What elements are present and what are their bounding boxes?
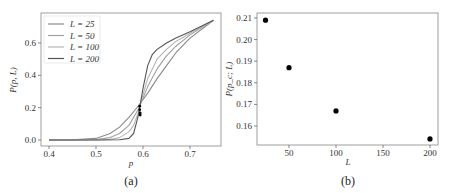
chart-b-ylabel: P(p_c; L) bbox=[224, 62, 234, 98]
chart-b-point bbox=[427, 136, 432, 141]
chart-b-x-tick-label: 100 bbox=[329, 148, 343, 158]
chart-b-x-tick-label: 50 bbox=[285, 148, 295, 158]
legend-label: L = 200 bbox=[69, 54, 99, 64]
chart-a-caption: (a) bbox=[124, 174, 137, 188]
chart-b-y-tick-label: 0.20 bbox=[236, 35, 252, 45]
chart-b: 50100150200 0.160.170.180.190.200.21 L P… bbox=[224, 13, 438, 188]
legend-label: L = 25 bbox=[69, 19, 95, 29]
chart-a-marker bbox=[138, 105, 141, 108]
chart-a: 0.40.50.60.7 0.00.20.40.6 p P(p, L) (a) … bbox=[8, 13, 221, 188]
chart-b-xlabel: L bbox=[344, 157, 350, 167]
chart-b-y-tick-label: 0.16 bbox=[236, 121, 252, 131]
chart-a-x-tick-label: 0.4 bbox=[43, 149, 55, 159]
chart-a-x-tick-label: 0.6 bbox=[137, 149, 149, 159]
chart-b-y-tick-label: 0.18 bbox=[236, 78, 252, 88]
legend-label: L = 100 bbox=[69, 42, 99, 52]
chart-b-caption: (b) bbox=[341, 174, 355, 188]
chart-a-ylabel: P(p, L) bbox=[8, 67, 18, 94]
chart-b-y-tick-label: 0.21 bbox=[236, 13, 252, 23]
chart-b-x-tick-label: 150 bbox=[376, 148, 390, 158]
chart-a-y-tick-label: 0.4 bbox=[25, 70, 37, 80]
chart-a-y-tick-label: 0.0 bbox=[25, 135, 37, 145]
chart-a-marker bbox=[139, 114, 142, 117]
chart-a-y-ticks: 0.00.20.40.6 bbox=[25, 38, 41, 145]
chart-b-point bbox=[263, 18, 268, 23]
chart-b-y-tick-label: 0.17 bbox=[236, 99, 252, 109]
chart-b-point bbox=[286, 65, 291, 70]
chart-b-x-ticks: 50100150200 bbox=[285, 145, 438, 158]
legend-label: L = 50 bbox=[69, 31, 95, 41]
chart-a-y-tick-label: 0.6 bbox=[25, 38, 37, 48]
chart-a-legend: L = 25L = 50L = 100L = 200 bbox=[44, 16, 100, 64]
chart-a-xlabel: p bbox=[128, 158, 134, 168]
chart-b-point bbox=[333, 108, 338, 113]
chart-a-x-tick-label: 0.5 bbox=[90, 149, 102, 159]
chart-b-frame bbox=[257, 13, 438, 145]
chart-a-y-tick-label: 0.2 bbox=[25, 103, 36, 113]
chart-a-x-tick-label: 0.7 bbox=[184, 149, 196, 159]
chart-b-y-ticks: 0.160.170.180.190.200.21 bbox=[236, 13, 257, 131]
chart-b-x-tick-label: 200 bbox=[423, 148, 437, 158]
chart-a-marker bbox=[138, 108, 141, 111]
chart-b-y-tick-label: 0.19 bbox=[236, 56, 252, 66]
chart-a-x-ticks: 0.40.50.60.7 bbox=[43, 146, 196, 159]
figure: 0.40.50.60.7 0.00.20.40.6 p P(p, L) (a) … bbox=[0, 0, 452, 193]
